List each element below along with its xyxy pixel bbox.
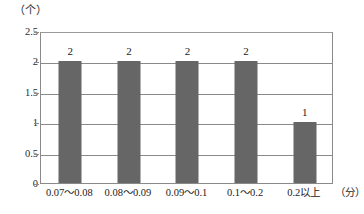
- y-axis-tick-mark: [34, 154, 39, 155]
- x-axis-unit-label: （分）: [335, 186, 364, 200]
- x-axis-tick-label: 0.07～0.08: [46, 186, 93, 200]
- bar: [176, 61, 199, 183]
- x-axis-tick-label: 0.08～0.09: [105, 186, 152, 200]
- y-axis-tick-mark: [34, 93, 39, 94]
- y-axis-tick-label: 0: [4, 178, 38, 189]
- bar-slot: 2: [158, 33, 217, 183]
- bar-chart-figure: （个） 00.511.522.5 22221 0.07～0.080.08～0.0…: [0, 0, 364, 214]
- x-axis-tick-label: 0.09～0.1: [166, 186, 208, 200]
- bar-value-label: 2: [126, 45, 132, 57]
- bar-value-label: 2: [68, 45, 74, 57]
- plot-area: 22221: [40, 32, 333, 184]
- y-axis-tick-mark: [34, 32, 39, 33]
- y-axis-tick-mark: [34, 123, 39, 124]
- y-axis-tick-label: 1.5: [4, 87, 38, 98]
- bar-value-label: 2: [243, 45, 249, 57]
- y-axis-tick-mark: [34, 184, 39, 185]
- x-axis-tick-labels: 0.07～0.080.08～0.090.09～0.10.1～0.20.2以上: [40, 186, 333, 204]
- bar-slot: 2: [100, 33, 159, 183]
- bar: [235, 61, 258, 183]
- x-axis-tick-label: 0.2以上: [287, 186, 320, 200]
- x-axis-tick-label: 0.1～0.2: [227, 186, 263, 200]
- bars-layer: 22221: [41, 33, 332, 183]
- bar-slot: 2: [41, 33, 100, 183]
- bar-slot: 1: [275, 33, 334, 183]
- y-axis-tick-label: 2: [4, 56, 38, 67]
- bar-value-label: 1: [302, 106, 308, 118]
- y-axis-ticks: 00.511.522.5: [0, 32, 38, 184]
- bar-slot: 2: [217, 33, 276, 183]
- y-axis-tick-label: 0.5: [4, 148, 38, 159]
- bar: [117, 61, 140, 183]
- bar: [293, 122, 316, 183]
- y-axis-unit-label: （个）: [14, 3, 47, 17]
- y-axis-tick-label: 2.5: [4, 26, 38, 37]
- bar-value-label: 2: [185, 45, 191, 57]
- bar: [59, 61, 82, 183]
- y-axis-tick-label: 1: [4, 117, 38, 128]
- y-axis-tick-mark: [34, 62, 39, 63]
